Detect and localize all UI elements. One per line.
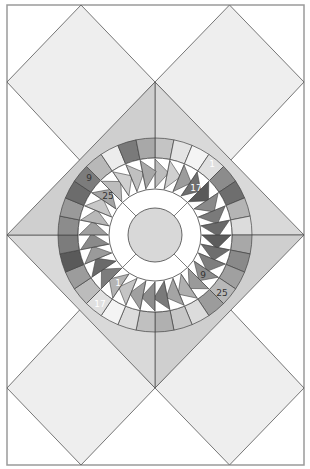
piece-number-label: 9 xyxy=(200,270,206,280)
center-circle xyxy=(109,189,201,281)
piece-number-label: 9 xyxy=(86,173,92,183)
piece-number-label: 25 xyxy=(102,191,113,201)
piece-number-label: 1 xyxy=(115,278,121,288)
quilt-diagram: 117925117925 xyxy=(0,0,310,469)
center-disc xyxy=(128,208,182,262)
piece-number-label: 1 xyxy=(209,159,215,169)
piece-number-label: 25 xyxy=(216,288,227,298)
piece-number-label: 17 xyxy=(94,299,105,309)
piece-number-label: 17 xyxy=(190,183,201,193)
